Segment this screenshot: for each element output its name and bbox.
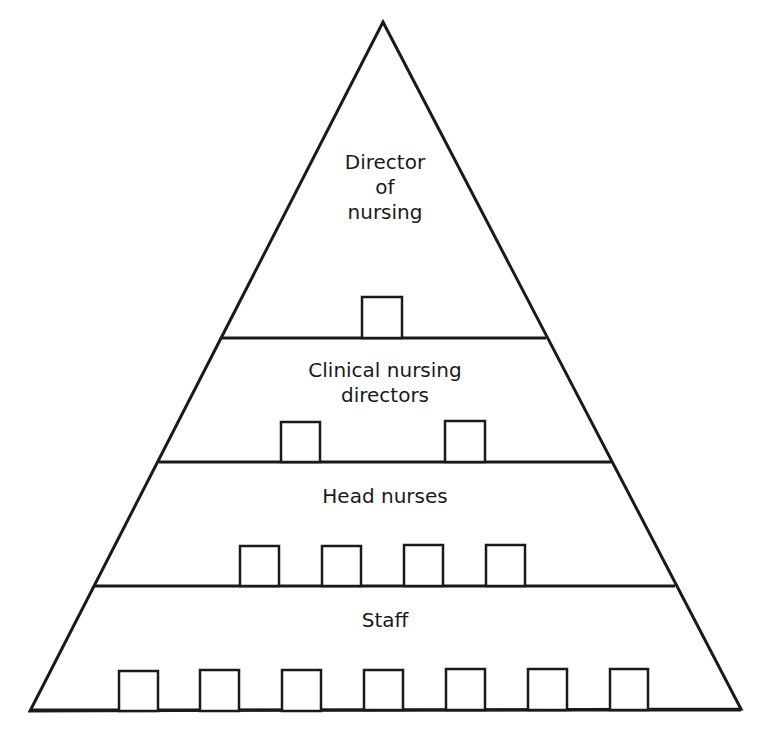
position-box-head-nurses-3 xyxy=(404,545,443,586)
position-box-head-nurses-1 xyxy=(240,546,279,586)
position-box-staff-7 xyxy=(610,669,648,710)
position-box-staff-2 xyxy=(200,670,239,711)
tier-label-clinical-nursing-directors: Clinical nursing directors xyxy=(308,358,461,408)
position-box-staff-6 xyxy=(528,669,567,710)
position-box-clinical-nursing-directors-2 xyxy=(445,421,485,462)
tier-label-head-nurses: Head nurses xyxy=(322,484,447,509)
position-box-staff-1 xyxy=(119,671,158,711)
tier-label-director: Director of nursing xyxy=(345,150,425,225)
position-box-head-nurses-2 xyxy=(322,546,361,586)
position-box-staff-3 xyxy=(282,670,321,711)
position-box-director-1 xyxy=(362,297,402,338)
position-box-head-nurses-4 xyxy=(486,545,525,586)
position-box-clinical-nursing-directors-1 xyxy=(281,422,320,462)
position-box-staff-4 xyxy=(364,670,403,710)
position-box-staff-5 xyxy=(446,669,485,710)
tier-label-staff: Staff xyxy=(362,608,409,633)
